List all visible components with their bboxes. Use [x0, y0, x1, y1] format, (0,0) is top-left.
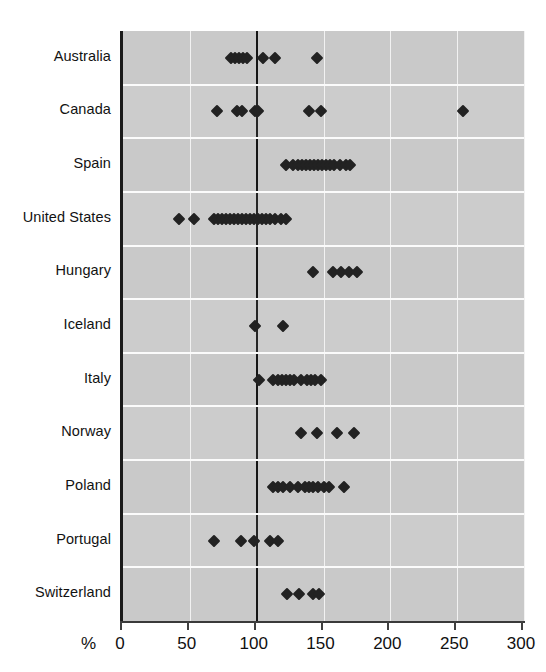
row-separator — [123, 513, 524, 515]
x-tick-label-300: 300 — [507, 634, 535, 654]
row-band — [123, 406, 524, 460]
row-separator — [123, 84, 524, 86]
plot-area — [120, 31, 524, 621]
x-tick-label-0: 0 — [115, 634, 124, 654]
row-separator — [123, 191, 524, 193]
row-band — [123, 246, 524, 300]
category-label-iceland: Iceland — [0, 316, 111, 332]
x-tick-label-150: 150 — [306, 634, 334, 654]
category-label-hungary: Hungary — [0, 262, 111, 278]
row-separator — [123, 405, 524, 407]
category-label-united-states: United States — [0, 209, 111, 225]
row-band — [123, 514, 524, 568]
category-label-norway: Norway — [0, 423, 111, 439]
chart-figure: AustraliaCanadaSpainUnited StatesHungary… — [0, 0, 546, 672]
category-label-spain: Spain — [0, 155, 111, 171]
category-label-poland: Poland — [0, 477, 111, 493]
category-label-switzerland: Switzerland — [0, 584, 111, 600]
x-tick-200 — [387, 621, 389, 630]
x-tick-label-50: 50 — [177, 634, 196, 654]
row-separator — [123, 352, 524, 354]
category-label-canada: Canada — [0, 101, 111, 117]
x-tick-label-200: 200 — [373, 634, 401, 654]
row-separator — [123, 459, 524, 461]
x-tick-label-100: 100 — [239, 634, 267, 654]
row-separator — [123, 245, 524, 247]
x-axis-unit-label: % — [81, 634, 96, 654]
category-label-portugal: Portugal — [0, 531, 111, 547]
row-separator — [123, 566, 524, 568]
x-axis-ticks — [120, 621, 524, 635]
x-tick-300 — [521, 621, 523, 630]
x-tick-0 — [120, 621, 122, 630]
category-label-australia: Australia — [0, 48, 111, 64]
row-separator — [123, 298, 524, 300]
gridline-300 — [524, 31, 525, 621]
row-band — [123, 299, 524, 353]
x-tick-150 — [321, 621, 323, 630]
row-separator — [123, 137, 524, 139]
x-tick-250 — [454, 621, 456, 630]
x-tick-label-250: 250 — [440, 634, 468, 654]
category-label-italy: Italy — [0, 370, 111, 386]
category-axis-labels: AustraliaCanadaSpainUnited StatesHungary… — [0, 31, 111, 621]
row-band — [123, 31, 524, 85]
x-tick-50 — [187, 621, 189, 630]
x-tick-100 — [254, 621, 256, 630]
